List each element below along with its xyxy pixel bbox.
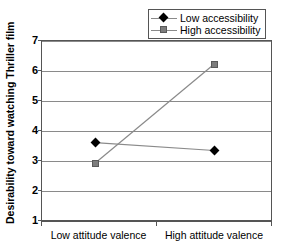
series-lines — [42, 41, 273, 222]
legend-label-high-accessibility: High accessibility — [180, 24, 261, 36]
square-point-1-0 — [92, 160, 99, 167]
chart-figure: Desirability toward watching Thriller fi… — [0, 0, 281, 250]
y-axis-ticks: 7 6 5 4 3 2 1 — [14, 40, 38, 221]
chart-legend: Low accessibility High accessibility — [148, 9, 266, 39]
x-tick-label-low-attitude-valence: Low attitude valence — [41, 229, 156, 241]
y-tick-label-7: 7 — [18, 35, 38, 46]
y-tick-label-1: 1 — [18, 215, 38, 226]
x-tick-mark-left — [41, 221, 42, 226]
series-line-high-accessibility — [95, 64, 214, 163]
y-tick-label-3: 3 — [18, 155, 38, 166]
y-tick-label-4: 4 — [18, 125, 38, 136]
y-tick-label-6: 6 — [18, 65, 38, 76]
x-tick-label-high-attitude-valence: High attitude valence — [156, 229, 272, 241]
legend-item-high-accessibility: High accessibility — [151, 24, 261, 36]
x-tick-mark-right — [271, 221, 272, 226]
y-tick-label-5: 5 — [18, 95, 38, 106]
legend-item-low-accessibility: Low accessibility — [151, 12, 261, 24]
square-marker-icon — [151, 24, 177, 36]
y-tick-label-2: 2 — [18, 185, 38, 196]
legend-label-low-accessibility: Low accessibility — [180, 12, 258, 24]
x-tick-mark-center — [156, 221, 157, 226]
diamond-marker-icon — [151, 12, 177, 24]
square-point-1-1 — [211, 61, 218, 68]
series-line-low-accessibility — [95, 143, 214, 151]
plot-area — [41, 40, 272, 221]
